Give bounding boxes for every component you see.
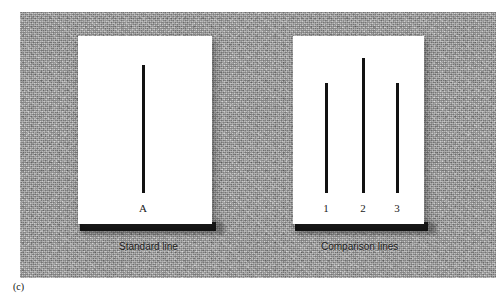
comparison-line-2 [362,58,365,193]
panel-letter: (c) [13,281,24,292]
comparison-line-1-label: 1 [319,202,333,214]
comparison-lines-card: 1 2 3 [293,36,433,236]
standard-line-caption: Standard line [119,241,178,252]
comparison-line-3 [396,83,399,193]
standard-line-card: A [78,36,218,236]
asch-conformity-figure: A Standard line 1 2 3 Comparison lines (… [0,0,503,296]
comparison-line-2-label: 2 [356,202,370,214]
comparison-line-3-label: 3 [390,202,404,214]
comparison-lines-caption: Comparison lines [321,241,398,252]
comparison-card-face: 1 2 3 [293,36,424,224]
standard-line-a [142,65,145,193]
standard-line-a-label: A [136,202,150,214]
standard-card-face: A [78,36,212,224]
comparison-line-1 [325,83,328,193]
